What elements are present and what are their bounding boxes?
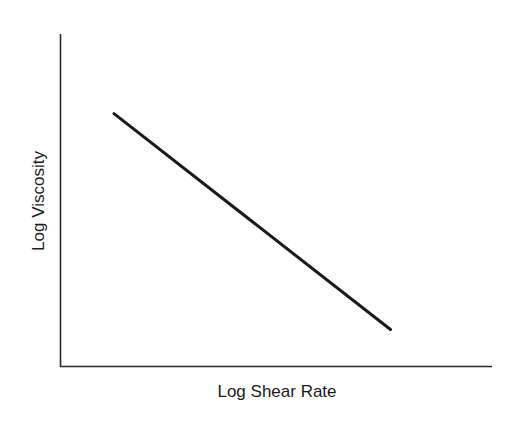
data-line xyxy=(114,114,390,330)
y-axis-title: Log Viscosity xyxy=(29,151,48,251)
x-axis-title: Log Shear Rate xyxy=(217,382,336,401)
chart: Log Viscosity Log Shear Rate xyxy=(0,0,523,421)
